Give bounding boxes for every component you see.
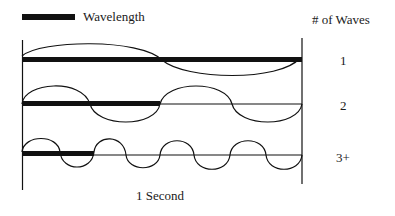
row-3-wavelength-bar [22, 151, 94, 156]
wave-diagram [0, 0, 395, 216]
row-2-wavelength-bar [22, 101, 160, 106]
row-1-wavelength-bar [22, 57, 302, 62]
